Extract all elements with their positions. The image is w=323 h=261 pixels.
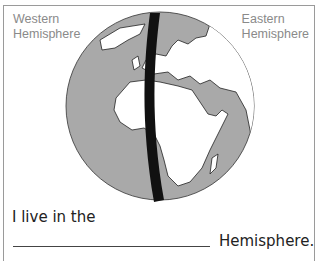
sentence-start: I live in the bbox=[12, 208, 95, 226]
sentence-end: Hemisphere. bbox=[219, 232, 314, 250]
answer-blank-line[interactable] bbox=[13, 246, 210, 247]
globe-icon bbox=[60, 10, 260, 202]
